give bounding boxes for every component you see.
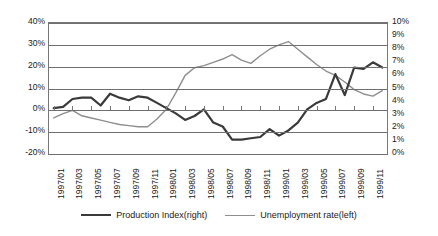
x-axis-tick <box>260 106 261 110</box>
x-axis-tick <box>72 106 73 110</box>
chart-container: 40%30%20%10%0%-10%-20% 10%9%8%7%6%5%4%3%… <box>0 0 438 236</box>
gridline <box>49 132 387 133</box>
x-axis-tick <box>279 106 280 110</box>
gridline <box>49 154 387 155</box>
left-axis-tick-label: 0% <box>33 104 45 113</box>
right-axis-tick-label: 8% <box>392 43 404 52</box>
x-axis-tick-label: 1999/01 <box>282 168 291 199</box>
gridline <box>49 45 387 46</box>
left-axis-tick-label: 30% <box>28 39 45 48</box>
x-axis-tick <box>317 106 318 110</box>
right-axis-tick-label: 6% <box>392 69 404 78</box>
x-axis-tick-label: 1999/05 <box>320 168 329 199</box>
right-axis-tick-label: 7% <box>392 56 404 65</box>
left-axis-tick-label: 20% <box>28 61 45 70</box>
unemployment-rate-line <box>54 42 383 127</box>
x-axis-tick-label: 1997/01 <box>57 168 66 199</box>
legend-item[interactable]: Unemployment rate(left) <box>225 210 357 220</box>
right-axis-tick-label: 10% <box>392 17 409 26</box>
gridline <box>49 110 387 111</box>
right-axis-tick-label: 0% <box>392 148 404 157</box>
x-axis-tick-label: 1997/11 <box>151 169 160 199</box>
gridline <box>49 67 387 68</box>
gridline <box>49 89 387 90</box>
x-axis-tick <box>110 106 111 110</box>
left-axis-tick-label: 10% <box>28 83 45 92</box>
right-axis-tick-label: 1% <box>392 135 404 144</box>
x-axis-tick <box>223 106 224 110</box>
x-axis-tick <box>204 106 205 110</box>
x-axis-tick <box>298 106 299 110</box>
x-axis-tick <box>373 106 374 110</box>
right-axis-tick-label: 9% <box>392 30 404 39</box>
x-axis-tick <box>354 106 355 110</box>
right-axis-tick-label: 2% <box>392 122 404 131</box>
legend-label: Unemployment rate(left) <box>260 210 357 220</box>
x-axis-tick <box>166 106 167 110</box>
x-axis-tick <box>335 106 336 110</box>
x-axis-tick-label: 1998/05 <box>207 168 216 199</box>
x-axis-tick-label: 1998/07 <box>226 168 235 199</box>
legend-label: Production Index(right) <box>116 210 207 220</box>
left-axis-tick-label: -10% <box>25 126 45 135</box>
x-axis-tick-label: 1997/09 <box>132 168 141 199</box>
x-axis-tick <box>185 106 186 110</box>
x-axis-tick-label: 1999/03 <box>301 168 310 199</box>
x-axis-tick-label: 1999/07 <box>338 168 347 199</box>
x-axis-tick-label: 1999/11 <box>376 169 385 199</box>
legend-item[interactable]: Production Index(right) <box>81 210 207 220</box>
right-axis-tick-label: 5% <box>392 83 404 92</box>
legend-line-icon <box>225 215 255 216</box>
x-axis-tick-label: 1998/09 <box>244 168 253 199</box>
x-axis-tick-label: 1998/03 <box>188 168 197 199</box>
x-axis-tick <box>54 106 55 110</box>
chart-legend: Production Index(right)Unemployment rate… <box>0 210 438 220</box>
x-axis-tick <box>91 106 92 110</box>
x-axis-tick-label: 1997/07 <box>113 168 122 199</box>
x-axis-tick-label: 1997/03 <box>75 168 84 199</box>
gridline <box>49 23 387 24</box>
legend-line-icon <box>81 214 111 216</box>
left-axis-tick-label: 40% <box>28 17 45 26</box>
x-axis-tick <box>148 106 149 110</box>
x-axis-tick-label: 1998/01 <box>169 168 178 199</box>
right-axis-tick-label: 4% <box>392 96 404 105</box>
x-axis-tick-label: 1998/11 <box>263 169 272 199</box>
right-axis-tick-label: 3% <box>392 109 404 118</box>
x-axis-tick-label: 1997/05 <box>94 168 103 199</box>
plot-area <box>48 22 388 155</box>
x-axis-tick <box>241 106 242 110</box>
x-axis-tick-label: 1999/09 <box>357 168 366 199</box>
x-axis-tick <box>129 106 130 110</box>
left-axis-tick-label: -20% <box>25 148 45 157</box>
